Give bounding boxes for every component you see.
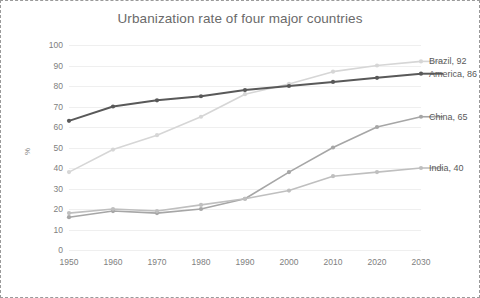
data-point-brazil-2010 [331, 70, 335, 74]
data-point-china-2010 [331, 145, 335, 149]
series-line-india [69, 168, 421, 213]
data-point-america-2020 [375, 76, 379, 80]
series-line-china [69, 117, 421, 217]
data-point-china-2000 [287, 170, 291, 174]
y-axis-tick: 60 [54, 122, 63, 132]
data-point-india-1970 [155, 209, 159, 213]
data-point-brazil-1960 [111, 147, 115, 151]
gridline [69, 250, 421, 251]
x-axis-tick-labels: 195019601970198019902000201020202030 [69, 257, 421, 273]
series-label-india: India, 40 [429, 163, 464, 173]
data-point-brazil-2020 [375, 63, 379, 67]
data-point-china-2020 [375, 125, 379, 129]
y-axis-tick: 10 [54, 225, 63, 235]
y-axis-tick: 70 [54, 102, 63, 112]
data-point-america-1950 [67, 119, 71, 123]
data-point-america-2000 [287, 84, 291, 88]
x-axis-tick: 2030 [412, 257, 431, 267]
y-axis-tick: 100 [49, 40, 63, 50]
series-label-china: China, 65 [429, 112, 468, 122]
data-point-india-1980 [199, 203, 203, 207]
series-line-america [69, 74, 421, 121]
y-axis-tick: 40 [54, 163, 63, 173]
series-lines [69, 45, 421, 250]
x-axis-tick: 1980 [192, 257, 211, 267]
data-point-america-2010 [331, 80, 335, 84]
y-axis-tick: 30 [54, 184, 63, 194]
data-point-india-1990 [243, 197, 247, 201]
x-axis-tick: 1950 [60, 257, 79, 267]
y-axis-tick: 80 [54, 81, 63, 91]
data-point-china-1950 [67, 215, 71, 219]
data-point-america-1970 [155, 98, 159, 102]
data-point-china-1980 [199, 207, 203, 211]
data-point-india-2010 [331, 174, 335, 178]
y-axis-tick-labels: 1009080706050403020100 [21, 45, 63, 250]
x-axis-tick: 2010 [324, 257, 343, 267]
data-point-america-1980 [199, 94, 203, 98]
y-axis-tick: 20 [54, 204, 63, 214]
data-point-brazil-1980 [199, 115, 203, 119]
series-label-america: America, 86 [429, 69, 477, 79]
data-point-india-2020 [375, 170, 379, 174]
y-axis-tick: 50 [54, 143, 63, 153]
data-point-america-1990 [243, 88, 247, 92]
x-axis-tick: 1990 [236, 257, 255, 267]
data-point-america-1960 [111, 104, 115, 108]
data-point-india-1960 [111, 207, 115, 211]
data-point-brazil-1990 [243, 92, 247, 96]
data-point-brazil-1970 [155, 133, 159, 137]
chart-container: Urbanization rate of four major countrie… [0, 0, 480, 298]
x-axis-tick: 1960 [104, 257, 123, 267]
data-point-brazil-1950 [67, 170, 71, 174]
x-axis-tick: 1970 [148, 257, 167, 267]
plot-area: Brazil, 92America, 86China, 65India, 40 [69, 45, 421, 250]
data-point-india-2000 [287, 188, 291, 192]
series-label-brazil: Brazil, 92 [429, 56, 467, 66]
y-axis-tick: 90 [54, 61, 63, 71]
chart-title: Urbanization rate of four major countrie… [1, 11, 479, 26]
y-axis-tick: 0 [58, 245, 63, 255]
data-point-india-1950 [67, 211, 71, 215]
x-axis-tick: 2000 [280, 257, 299, 267]
x-axis-tick: 2020 [368, 257, 387, 267]
